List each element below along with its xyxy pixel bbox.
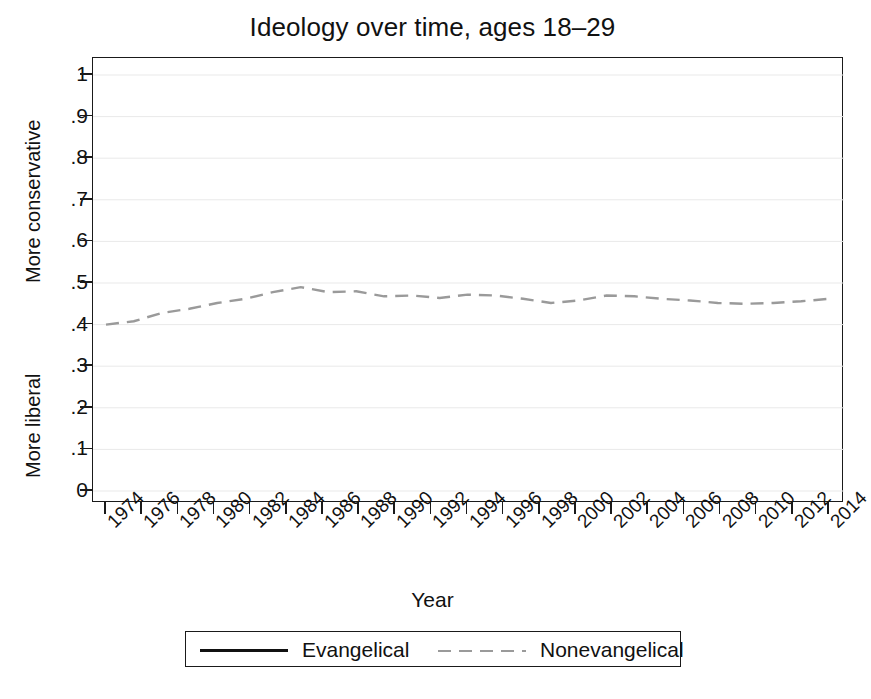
x-tick-mark xyxy=(574,502,576,514)
x-tick-mark xyxy=(646,502,648,514)
x-tick-mark xyxy=(755,502,757,514)
y-tick-mark xyxy=(80,115,92,117)
legend-label-nonevangelical: Nonevangelical xyxy=(540,638,684,662)
plot-canvas xyxy=(93,58,844,503)
legend-item-nonevangelical: Nonevangelical xyxy=(438,632,684,668)
legend-label-evangelical: Evangelical xyxy=(302,638,409,662)
x-tick-mark xyxy=(357,502,359,514)
x-tick-mark xyxy=(466,502,468,514)
y-tick-mark xyxy=(80,489,92,491)
chart-legend: Evangelical Nonevangelical xyxy=(185,631,681,667)
x-tick-mark xyxy=(719,502,721,514)
y-tick-mark xyxy=(80,73,92,75)
x-tick-mark xyxy=(791,502,793,514)
y-axis-title-liberal: More liberal xyxy=(22,374,45,478)
y-tick-mark xyxy=(80,406,92,408)
y-tick-mark xyxy=(80,198,92,200)
y-tick-mark xyxy=(80,281,92,283)
x-tick-mark xyxy=(393,502,395,514)
chart-title: Ideology over time, ages 18–29 xyxy=(0,12,865,43)
series-line-nonevangelical xyxy=(106,287,829,324)
x-tick-mark xyxy=(285,502,287,514)
y-axis-title-conservative: More conservative xyxy=(22,120,45,283)
y-tick-mark xyxy=(80,240,92,242)
x-tick-mark xyxy=(827,502,829,514)
y-tick-mark xyxy=(80,448,92,450)
x-tick-mark xyxy=(104,502,106,514)
x-tick-mark xyxy=(249,502,251,514)
x-tick-mark xyxy=(140,502,142,514)
plot-area xyxy=(92,57,843,502)
x-tick-mark xyxy=(538,502,540,514)
x-tick-mark xyxy=(610,502,612,514)
legend-line-solid-icon xyxy=(200,643,288,657)
x-tick-mark xyxy=(321,502,323,514)
x-axis-title: Year xyxy=(0,588,865,612)
y-tick-mark xyxy=(80,156,92,158)
legend-line-dashed-icon xyxy=(438,643,526,657)
y-tick-mark xyxy=(80,323,92,325)
legend-item-evangelical: Evangelical xyxy=(200,632,409,668)
x-tick-mark xyxy=(502,502,504,514)
y-tick-mark xyxy=(80,364,92,366)
